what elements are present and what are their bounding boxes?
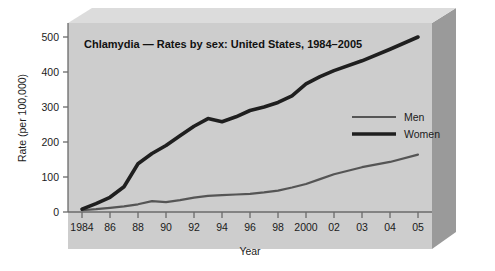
x-axis-tick-label: 05 (412, 221, 424, 233)
x-axis-tick-label: 02 (328, 221, 340, 233)
y-axis-title: Rate (per 100,000) (16, 74, 28, 162)
y-axis-ticks (63, 37, 68, 212)
x-axis-tick-label: 86 (104, 221, 116, 233)
x-axis-tick-label: 03 (356, 221, 368, 233)
chart-figure: 0100200300400500 19848688909294969820000… (0, 0, 495, 271)
x-axis-tick-label: 94 (216, 221, 228, 233)
x-axis-tick-label: 90 (160, 221, 172, 233)
chart-title: Chlamydia — Rates by sex: United States,… (84, 38, 362, 50)
x-axis-tick-label: 88 (132, 221, 144, 233)
x-axis-title: Year (239, 245, 261, 257)
x-axis-tick-label: 2000 (294, 221, 318, 233)
y-axis-tick-label: 400 (41, 66, 59, 78)
legend-label-women: Women (404, 128, 440, 140)
x-axis-tick-label: 92 (188, 221, 200, 233)
x-axis-tick-label: 04 (384, 221, 396, 233)
y-axis-tick-label: 200 (41, 136, 59, 148)
y-axis-tick-label: 300 (41, 101, 59, 113)
x-axis-tick-label: 96 (244, 221, 256, 233)
x-axis-tick-label: 1984 (70, 221, 94, 233)
y-axis-tick-labels: 0100200300400500 (41, 31, 59, 218)
y-axis-tick-label: 500 (41, 31, 59, 43)
line-chart: 0100200300400500 19848688909294969820000… (0, 0, 495, 271)
y-axis-tick-label: 100 (41, 171, 59, 183)
legend-label-men: Men (404, 111, 425, 123)
x-axis-tick-label: 98 (272, 221, 284, 233)
y-axis-tick-label: 0 (53, 206, 59, 218)
plot-bevel-top-face (68, 8, 456, 23)
